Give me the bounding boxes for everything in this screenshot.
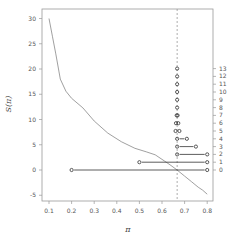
right-tick-label: 10 bbox=[219, 88, 227, 95]
right-tick-label: 12 bbox=[219, 72, 227, 79]
interval-start-point bbox=[70, 168, 73, 171]
right-tick-label: 4 bbox=[219, 135, 223, 142]
right-tick-label: 9 bbox=[219, 96, 223, 103]
right-tick-label: 3 bbox=[219, 143, 223, 150]
right-tick-label: 13 bbox=[219, 65, 227, 72]
right-tick-label: 5 bbox=[219, 127, 223, 134]
plot-frame bbox=[42, 9, 213, 201]
right-tick-label: 8 bbox=[219, 104, 223, 111]
x-axis-label: π bbox=[124, 225, 131, 234]
y-tick-label: -5 bbox=[30, 191, 36, 198]
interval-end-point bbox=[206, 153, 209, 156]
x-tick-label: 0.2 bbox=[67, 207, 77, 214]
interval-row bbox=[176, 153, 209, 156]
x-tick-label: 0.4 bbox=[112, 207, 122, 214]
interval-series bbox=[70, 67, 209, 172]
interval-row bbox=[176, 145, 198, 148]
right-tick-label: 1 bbox=[219, 158, 223, 165]
interval-start-point bbox=[174, 129, 177, 132]
y-tick-label: 10 bbox=[28, 116, 36, 123]
interval-row bbox=[138, 161, 209, 164]
interval-end-point bbox=[194, 145, 197, 148]
y-tick-label: 15 bbox=[28, 90, 36, 97]
y-tick-label: 25 bbox=[28, 40, 36, 47]
chart: -5051015202530 0.10.20.30.40.50.60.70.8 … bbox=[0, 0, 231, 240]
interval-row bbox=[70, 168, 209, 171]
x-tick-label: 0.1 bbox=[44, 207, 54, 214]
y-axis-label: S(π) bbox=[4, 96, 13, 113]
interval-end-point bbox=[178, 129, 181, 132]
interval-start-point bbox=[138, 161, 141, 164]
x-axis: 0.10.20.30.40.50.60.70.8 bbox=[44, 201, 212, 214]
x-tick-label: 0.5 bbox=[135, 207, 145, 214]
right-tick-label: 2 bbox=[219, 150, 223, 157]
interval-row bbox=[175, 114, 179, 117]
interval-row bbox=[174, 122, 179, 125]
y-tick-label: 0 bbox=[32, 166, 36, 173]
y-axis: -5051015202530 bbox=[28, 15, 42, 199]
right-tick-label: 6 bbox=[219, 119, 223, 126]
interval-end-point bbox=[206, 161, 209, 164]
interval-end-point bbox=[185, 137, 188, 140]
interval-end-point bbox=[177, 122, 180, 125]
right-tick-label: 11 bbox=[219, 80, 227, 87]
right-tick-label: 0 bbox=[219, 166, 223, 173]
x-tick-label: 0.6 bbox=[157, 207, 167, 214]
curve-line bbox=[49, 19, 207, 195]
x-tick-label: 0.3 bbox=[89, 207, 99, 214]
x-tick-label: 0.7 bbox=[180, 207, 190, 214]
right-axis: 012345678910111213 bbox=[213, 65, 227, 173]
interval-end-point bbox=[206, 168, 209, 171]
y-tick-label: 30 bbox=[28, 15, 36, 22]
x-tick-label: 0.8 bbox=[202, 207, 212, 214]
y-tick-label: 20 bbox=[28, 65, 36, 72]
y-tick-label: 5 bbox=[32, 141, 36, 148]
right-tick-label: 7 bbox=[219, 111, 223, 118]
